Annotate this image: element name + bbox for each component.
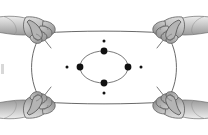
large-dots <box>77 48 132 87</box>
hand-top-left <box>0 16 55 43</box>
dot-left-outer <box>66 66 69 69</box>
dot-right <box>125 64 132 71</box>
string-top-run <box>42 31 166 33</box>
dot-top-outer <box>103 40 106 43</box>
hand-bottom-right <box>153 92 208 119</box>
string-figure-diagram: String figure held by four hands Line dr… <box>0 0 208 135</box>
hand-bottom-left <box>0 92 55 119</box>
diagram-canvas <box>0 0 208 135</box>
dot-left <box>77 64 84 71</box>
dot-top <box>101 48 108 55</box>
string-bottom-run <box>42 102 166 104</box>
dot-bottom-outer <box>103 92 106 95</box>
dot-bottom <box>101 80 108 87</box>
edge-smudge <box>1 64 4 74</box>
dot-right-outer <box>140 66 143 69</box>
center-ellipse <box>80 51 128 83</box>
string-tails <box>40 34 168 101</box>
hand-top-right <box>153 16 208 43</box>
